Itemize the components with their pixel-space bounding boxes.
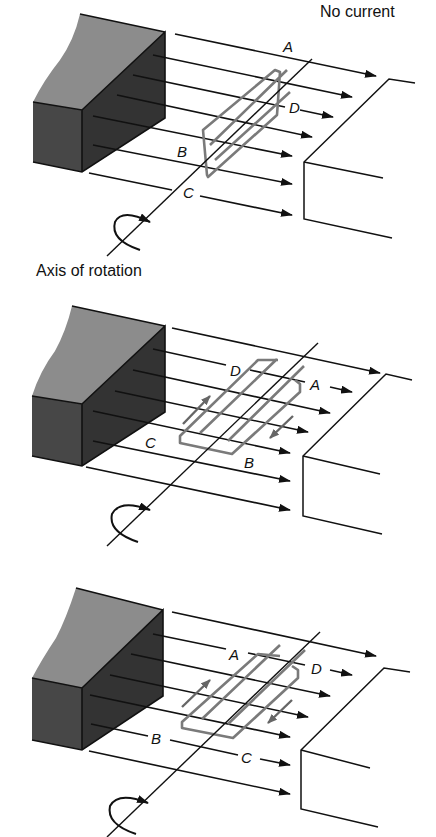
caption-no-current: No current bbox=[320, 3, 395, 20]
label-b: B bbox=[244, 454, 254, 471]
label-c: C bbox=[145, 434, 156, 451]
caption-axis-of-rotation: Axis of rotation bbox=[36, 262, 142, 279]
label-d: D bbox=[311, 660, 322, 677]
label-d: D bbox=[289, 99, 300, 116]
label-b: B bbox=[151, 730, 161, 747]
label-a: A bbox=[309, 376, 320, 393]
opposite-magnet-pole bbox=[304, 79, 415, 238]
magnet-pole bbox=[33, 14, 165, 172]
label-a: A bbox=[228, 646, 239, 663]
opposite-magnet-pole bbox=[301, 668, 410, 827]
panel-1: No current A D B C Axis of rotation bbox=[33, 3, 415, 279]
label-a: A bbox=[282, 38, 293, 55]
motor-diagram: No current A D B C Axis of rotation bbox=[0, 0, 436, 837]
label-c: C bbox=[183, 184, 194, 201]
coil-loop bbox=[182, 645, 305, 738]
current-arrow-up bbox=[182, 680, 210, 707]
label-b: B bbox=[177, 143, 187, 160]
current-arrow-down bbox=[270, 416, 293, 438]
label-c: C bbox=[241, 749, 252, 766]
panel-2: D A C B bbox=[32, 306, 412, 546]
label-d: D bbox=[230, 362, 241, 379]
panel-3: A D B C bbox=[32, 588, 410, 837]
opposite-magnet-pole bbox=[303, 374, 412, 534]
